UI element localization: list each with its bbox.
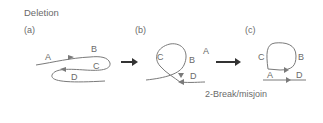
segment-label: A	[203, 47, 209, 56]
arrow-icon	[284, 67, 289, 73]
caption: 2-Break/misjoin	[205, 90, 267, 99]
segment-label: A	[45, 53, 51, 62]
segment-label: B	[91, 45, 97, 54]
segment-label: C	[157, 53, 164, 62]
segment-label: B	[298, 53, 304, 62]
segment-label: D	[190, 72, 197, 81]
arrow-icon	[178, 73, 184, 78]
segment-label: D	[71, 73, 78, 82]
segment-label: B	[189, 56, 195, 65]
segment-label: A	[267, 71, 273, 80]
arrow-icon	[286, 77, 291, 83]
arrow-icon	[178, 79, 184, 85]
segment-label: C	[258, 53, 265, 62]
segment-label: D	[296, 71, 303, 80]
panel-c-circle	[267, 43, 296, 70]
arrow-icon	[235, 58, 241, 66]
segment-label: C	[93, 62, 100, 71]
arrow-icon	[132, 58, 138, 66]
